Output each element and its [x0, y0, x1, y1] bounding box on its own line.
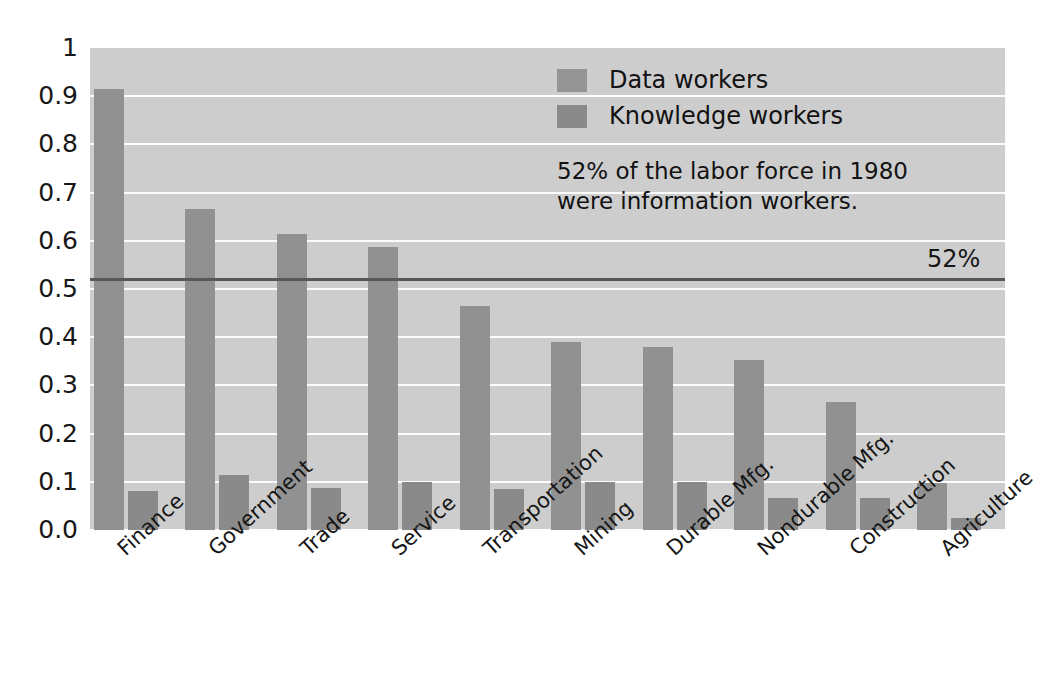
- legend-swatch-data-workers: [557, 69, 587, 92]
- y-axis-tick-label: 0.9: [0, 83, 78, 108]
- bar-data-workers: [94, 89, 124, 530]
- bar-data-workers: [643, 347, 673, 530]
- gridline: [90, 240, 1005, 242]
- bar-data-workers: [460, 306, 490, 530]
- y-axis-tick-label: 1: [0, 35, 78, 60]
- gridline: [90, 433, 1005, 435]
- reference-line-label: 52%: [927, 247, 980, 271]
- gridline: [90, 95, 1005, 97]
- y-axis-tick-label: 0.4: [0, 324, 78, 349]
- annotation-text: 52% of the labor force in 1980 were info…: [557, 157, 908, 217]
- reference-line-52pct: [90, 278, 1005, 281]
- bar-data-workers: [368, 247, 398, 530]
- y-axis-tick-label: 0.2: [0, 421, 78, 446]
- y-axis-tick-label: 0.3: [0, 372, 78, 397]
- y-axis-tick-label: 0.0: [0, 517, 78, 542]
- gridline: [90, 336, 1005, 338]
- y-axis-tick-label: 0.8: [0, 131, 78, 156]
- y-axis: 10.90.80.70.60.50.40.30.20.10.0: [0, 0, 88, 688]
- chart-container: 10.90.80.70.60.50.40.30.20.10.0 Data wor…: [0, 0, 1051, 688]
- gridline: [90, 143, 1005, 145]
- legend-label-data-workers: Data workers: [609, 68, 768, 92]
- bar-data-workers: [185, 209, 215, 530]
- y-axis-tick-label: 0.5: [0, 276, 78, 301]
- legend-item-knowledge-workers: Knowledge workers: [557, 98, 843, 134]
- legend-label-knowledge-workers: Knowledge workers: [609, 104, 843, 128]
- legend: Data workers Knowledge workers: [557, 62, 843, 134]
- y-axis-tick-label: 0.7: [0, 180, 78, 205]
- gridline: [90, 384, 1005, 386]
- legend-swatch-knowledge-workers: [557, 105, 587, 128]
- y-axis-tick-label: 0.6: [0, 228, 78, 253]
- gridline: [90, 288, 1005, 290]
- y-axis-tick-label: 0.1: [0, 469, 78, 494]
- legend-item-data-workers: Data workers: [557, 62, 843, 98]
